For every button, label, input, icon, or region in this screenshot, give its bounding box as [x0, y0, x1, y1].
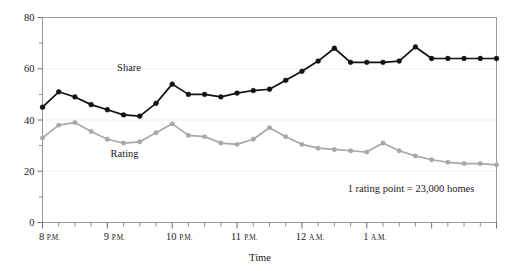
- data-point: [429, 158, 433, 162]
- data-point: [56, 89, 61, 94]
- data-point: [218, 95, 223, 100]
- data-point: [89, 129, 93, 133]
- data-point: [57, 123, 61, 127]
- x-tick-hour-4: 12: [296, 231, 307, 242]
- data-point: [365, 150, 369, 154]
- annotation-note: 1 rating point = 23,000 homes: [348, 183, 475, 194]
- data-point: [381, 60, 386, 65]
- data-point: [138, 140, 142, 144]
- data-point: [219, 141, 223, 145]
- data-point: [121, 112, 126, 117]
- data-point: [348, 149, 352, 153]
- data-point: [267, 87, 272, 92]
- data-point: [170, 82, 175, 87]
- series-label-rating: Rating: [111, 148, 140, 159]
- series-label-share: Share: [117, 62, 141, 73]
- data-point: [316, 59, 321, 64]
- x-tick-meridiem-5: A.M.: [371, 234, 386, 242]
- data-point: [186, 133, 190, 137]
- data-point: [235, 91, 240, 96]
- data-point: [89, 102, 94, 107]
- data-point: [494, 163, 498, 167]
- data-point: [154, 131, 158, 135]
- y-tick-label-60: 60: [24, 63, 35, 74]
- x-tick-hour-2: 10: [166, 231, 177, 242]
- data-point: [300, 69, 305, 74]
- x-axis-title: Time: [249, 252, 271, 263]
- data-point: [397, 59, 402, 64]
- x-tick-meridiem-0: P.M.: [47, 234, 60, 242]
- y-tick-label-20: 20: [24, 166, 35, 177]
- data-point: [154, 101, 159, 106]
- data-point: [186, 92, 191, 97]
- data-point: [478, 161, 482, 165]
- data-point: [284, 134, 288, 138]
- x-tick-meridiem-4: A.M.: [309, 234, 324, 242]
- data-point: [105, 107, 110, 112]
- data-point: [429, 56, 434, 61]
- data-point: [235, 142, 239, 146]
- x-tick-meridiem-1: P.M.: [112, 234, 125, 242]
- x-tick-meridiem-2: P.M.: [179, 234, 192, 242]
- data-point: [251, 137, 255, 141]
- data-point: [40, 136, 44, 140]
- data-point: [364, 60, 369, 65]
- data-point: [105, 137, 109, 141]
- data-point: [446, 160, 450, 164]
- data-point: [316, 146, 320, 150]
- chart-background: [0, 0, 511, 271]
- y-tick-label-40: 40: [24, 115, 35, 126]
- data-point: [202, 92, 207, 97]
- data-point: [73, 120, 77, 124]
- x-tick-hour-0: 8: [39, 231, 44, 242]
- data-point: [267, 125, 271, 129]
- data-point: [494, 56, 499, 61]
- data-point: [445, 56, 450, 61]
- y-tick-label-80: 80: [24, 12, 35, 23]
- data-point: [251, 88, 256, 93]
- data-point: [413, 45, 418, 50]
- chart-figure: 020406080 8P.M.9P.M.10P.M.11P.M.12A.M.1A…: [0, 0, 511, 271]
- x-tick-meridiem-3: P.M.: [244, 234, 257, 242]
- ratings-share-line-chart: 020406080 8P.M.9P.M.10P.M.11P.M.12A.M.1A…: [0, 0, 511, 271]
- y-tick-label-0: 0: [29, 217, 34, 228]
- data-point: [332, 46, 337, 51]
- data-point: [170, 122, 174, 126]
- data-point: [462, 56, 467, 61]
- data-point: [381, 141, 385, 145]
- data-point: [73, 95, 78, 100]
- data-point: [40, 105, 45, 110]
- data-point: [348, 60, 353, 65]
- data-point: [332, 147, 336, 151]
- x-tick-hour-3: 11: [231, 231, 241, 242]
- data-point: [137, 114, 142, 119]
- data-point: [462, 161, 466, 165]
- data-point: [397, 149, 401, 153]
- data-point: [478, 56, 483, 61]
- data-point: [283, 78, 288, 83]
- x-tick-hour-5: 1: [363, 231, 368, 242]
- data-point: [121, 141, 125, 145]
- data-point: [413, 154, 417, 158]
- data-point: [202, 134, 206, 138]
- x-tick-hour-1: 9: [104, 231, 109, 242]
- data-point: [300, 142, 304, 146]
